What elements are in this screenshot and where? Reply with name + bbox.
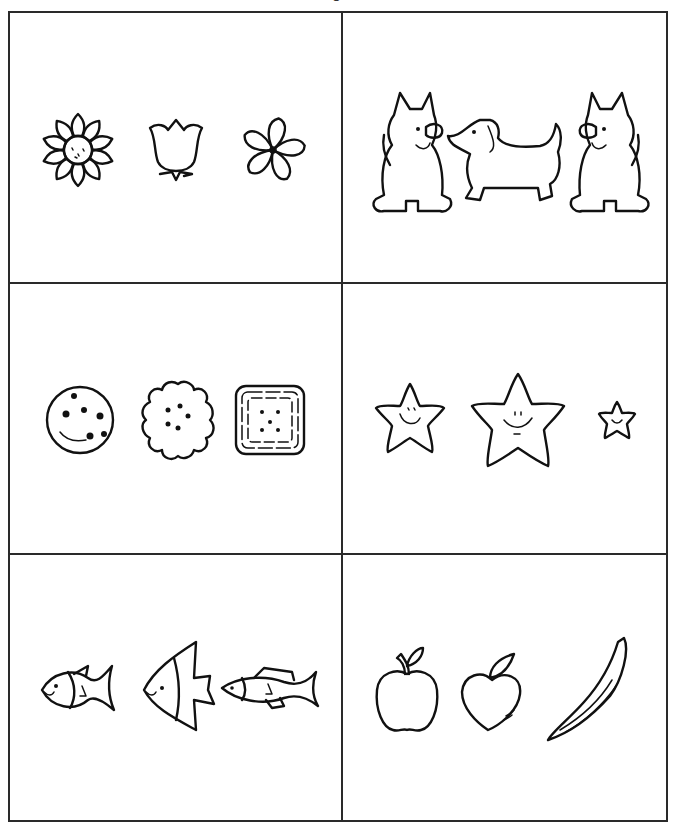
sitting-terrier-dog-icon	[571, 93, 649, 211]
sitting-terrier-dog-icon	[374, 93, 452, 211]
tulip-flower-icon	[150, 120, 202, 180]
medium-smiling-star-icon	[376, 384, 444, 452]
small-smiling-star-icon	[599, 402, 635, 438]
dachshund-dog-icon	[448, 120, 561, 200]
chocolate-chip-cookie-icon	[47, 387, 113, 453]
angelfish-icon	[144, 642, 214, 730]
peach-icon	[462, 654, 520, 730]
large-smiling-star-icon	[472, 374, 564, 466]
round-fish-icon	[42, 666, 114, 710]
scalloped-cookie-icon	[143, 382, 214, 459]
apple-icon	[377, 648, 438, 731]
square-cracker-icon	[236, 386, 304, 454]
long-fish-icon	[222, 668, 318, 708]
banana-icon	[548, 638, 626, 740]
drawings-layer	[0, 0, 675, 826]
daisy-flower-icon	[42, 114, 114, 186]
five-petal-flower-icon	[241, 117, 306, 182]
